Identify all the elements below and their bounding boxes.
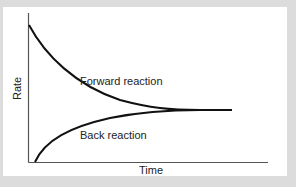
forward-reaction-curve	[29, 25, 232, 110]
rate-time-diagram: Forward reaction Back reaction Time Rate	[0, 0, 296, 187]
forward-reaction-label: Forward reaction	[80, 75, 163, 87]
y-axis-label: Rate	[11, 77, 23, 100]
back-reaction-label: Back reaction	[80, 129, 147, 141]
x-axis-label: Time	[139, 164, 163, 176]
